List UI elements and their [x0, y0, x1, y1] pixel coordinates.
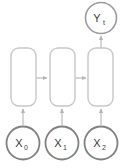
- input-node-x2-subscript: 2: [102, 144, 106, 151]
- input-node-x1-base: X: [54, 137, 62, 149]
- input-node-x1-subscript: 1: [63, 144, 67, 151]
- output-node-yt[interactable]: Y t: [86, 3, 117, 34]
- input-node-x0-subscript: 0: [24, 144, 28, 151]
- input-node-x0[interactable]: X 0: [7, 127, 40, 160]
- input-node-x0-base: X: [15, 137, 23, 149]
- rnn-unrolled-diagram: Y t X 0 X 1 X 2: [0, 0, 124, 168]
- diagram-canvas: Y t X 0 X 1 X 2: [0, 0, 124, 168]
- output-node-yt-circle: [86, 3, 117, 34]
- output-node-yt-subscript: t: [103, 19, 105, 26]
- input-node-x2-base: X: [93, 137, 101, 149]
- rnn-cell-0[interactable]: [11, 48, 36, 106]
- output-node-yt-base: Y: [93, 12, 101, 24]
- input-node-x0-circle: [7, 127, 40, 160]
- rnn-cell-1[interactable]: [50, 48, 75, 106]
- input-node-x1-circle: [46, 127, 79, 160]
- input-node-x2[interactable]: X 2: [85, 127, 118, 160]
- cell-group: [11, 48, 113, 106]
- rnn-cell-2[interactable]: [88, 48, 113, 106]
- input-node-x2-circle: [85, 127, 118, 160]
- input-node-x1[interactable]: X 1: [46, 127, 79, 160]
